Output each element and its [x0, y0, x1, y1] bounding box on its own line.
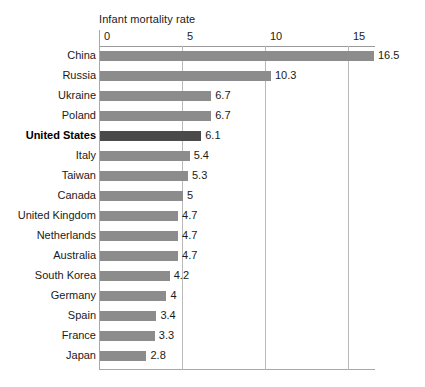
bar-row: Ukraine6.7: [0, 86, 425, 106]
axis-bottom-rule: [99, 369, 375, 370]
bar-australia: [100, 251, 178, 261]
bar-germany: [100, 291, 166, 301]
chart-title: Infant mortality rate: [99, 13, 195, 25]
category-label-ukraine: Ukraine: [58, 89, 96, 101]
bar-canada: [100, 191, 183, 201]
x-tick-label-10: 10: [265, 30, 282, 42]
bar-rows: China16.5Russia10.3Ukraine6.7Poland6.7Un…: [0, 46, 425, 366]
bar-spain: [100, 311, 156, 321]
category-label-australia: Australia: [53, 249, 96, 261]
bar-row: Netherlands4.7: [0, 226, 425, 246]
category-label-italy: Italy: [76, 149, 96, 161]
category-label-spain: Spain: [68, 309, 96, 321]
bar-russia: [100, 71, 271, 81]
category-label-united-kingdom: United Kingdom: [18, 209, 96, 221]
bar-poland: [100, 111, 211, 121]
bar-row: Poland6.7: [0, 106, 425, 126]
bar-value-australia: 4.7: [182, 249, 197, 261]
bar-row: Italy5.4: [0, 146, 425, 166]
bar-row: Japan2.8: [0, 346, 425, 366]
bar-netherlands: [100, 231, 178, 241]
category-label-taiwan: Taiwan: [62, 169, 96, 181]
bar-italy: [100, 151, 190, 161]
category-label-germany: Germany: [51, 289, 96, 301]
bar-row: France3.3: [0, 326, 425, 346]
bar-value-netherlands: 4.7: [182, 229, 197, 241]
bar-row: United States6.1: [0, 126, 425, 146]
bar-row: South Korea4.2: [0, 266, 425, 286]
category-label-france: France: [62, 329, 96, 341]
bar-value-united-states: 6.1: [205, 129, 220, 141]
category-label-netherlands: Netherlands: [37, 229, 96, 241]
bar-value-germany: 4: [170, 289, 176, 301]
bar-united-states: [100, 131, 201, 141]
bar-value-japan: 2.8: [150, 349, 165, 361]
bar-row: Russia10.3: [0, 66, 425, 86]
bar-value-taiwan: 5.3: [192, 169, 207, 181]
bar-united-kingdom: [100, 211, 178, 221]
bar-taiwan: [100, 171, 188, 181]
bar-row: Germany4: [0, 286, 425, 306]
bar-value-italy: 5.4: [194, 149, 209, 161]
bar-ukraine: [100, 91, 211, 101]
bar-china: [100, 51, 374, 61]
x-tick-label-0: 0: [99, 30, 110, 42]
category-label-south-korea: South Korea: [35, 269, 96, 281]
x-tick-label-5: 5: [182, 30, 193, 42]
bar-value-spain: 3.4: [160, 309, 175, 321]
bar-value-canada: 5: [187, 189, 193, 201]
bar-value-south-korea: 4.2: [174, 269, 189, 281]
bar-value-china: 16.5: [378, 49, 399, 61]
bar-row: Spain3.4: [0, 306, 425, 326]
bar-value-france: 3.3: [159, 329, 174, 341]
category-label-united-states: United States: [26, 129, 96, 141]
bar-row: Australia4.7: [0, 246, 425, 266]
bar-value-united-kingdom: 4.7: [182, 209, 197, 221]
bar-japan: [100, 351, 146, 361]
bar-value-poland: 6.7: [215, 109, 230, 121]
bar-row: United Kingdom4.7: [0, 206, 425, 226]
category-label-canada: Canada: [57, 189, 96, 201]
bar-row: Canada5: [0, 186, 425, 206]
bar-row: China16.5: [0, 46, 425, 66]
category-label-china: China: [67, 49, 96, 61]
bar-row: Taiwan5.3: [0, 166, 425, 186]
bar-france: [100, 331, 155, 341]
category-label-poland: Poland: [62, 109, 96, 121]
infant-mortality-bar-chart: Infant mortality rate 051015 China16.5Ru…: [0, 0, 425, 387]
category-label-japan: Japan: [66, 349, 96, 361]
category-label-russia: Russia: [62, 69, 96, 81]
bar-south-korea: [100, 271, 170, 281]
bar-value-ukraine: 6.7: [215, 89, 230, 101]
x-tick-label-15: 15: [348, 30, 365, 42]
bar-value-russia: 10.3: [275, 69, 296, 81]
